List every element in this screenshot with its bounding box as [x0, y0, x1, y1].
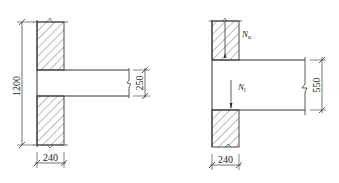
left-wall-top-break-icon: [47, 18, 52, 22]
dim-250-label: 250: [134, 76, 145, 91]
nl-subscript: l: [244, 87, 246, 93]
dim-550-label: 550: [311, 78, 322, 93]
left-lower-wall: [37, 96, 64, 145]
right-lower-wall: [212, 110, 239, 147]
left-beam-break-icon: [127, 68, 131, 98]
dim-1200: 1200: [11, 19, 34, 148]
diagram-canvas: 1200 250 240: [0, 0, 339, 183]
right-upper-wall: [212, 21, 239, 60]
left-upper-wall: [37, 22, 64, 70]
dim-240-left: 240: [34, 152, 67, 168]
dim-240-left-label: 240: [43, 152, 58, 163]
nu-subscript: u: [248, 34, 251, 40]
dim-240-right-label: 240: [218, 154, 233, 165]
dim-240-right: 240: [209, 154, 242, 170]
diagram-svg: 1200 250 240: [0, 0, 339, 183]
load-nl: N l: [230, 80, 247, 109]
right-beam-break-icon: [302, 57, 307, 115]
dim-550: 550: [310, 57, 326, 113]
right-figure: N u N l 550 240: [209, 18, 326, 170]
dim-250: 250: [133, 67, 150, 99]
dim-1200-label: 1200: [11, 76, 22, 96]
left-figure: 1200 250 240: [11, 18, 150, 168]
